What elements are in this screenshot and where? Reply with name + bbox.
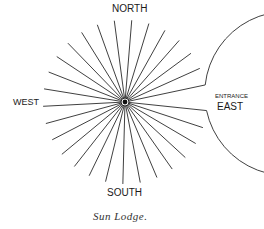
- east-label: EAST: [217, 101, 243, 112]
- north-label: NORTH: [112, 3, 147, 14]
- center-pole: [123, 100, 128, 105]
- west-label: WEST: [13, 97, 39, 107]
- lodge-spoke: [82, 32, 125, 102]
- lodge-spoke: [125, 40, 179, 102]
- lodge-spoke: [89, 102, 125, 176]
- lodge-spoke: [68, 43, 125, 102]
- lodge-spoke: [125, 30, 165, 102]
- lodge-spoke: [52, 102, 125, 140]
- lodge-spoke: [97, 25, 125, 102]
- lodge-spoke: [44, 89, 125, 102]
- entrance-label: ENTRANCE: [215, 93, 248, 99]
- lodge-spoke: [123, 102, 125, 184]
- lodge-spoke: [125, 102, 172, 169]
- lodge-spoke: [114, 21, 125, 102]
- lodge-spoke: [125, 68, 200, 102]
- lodge-spoke: [125, 102, 157, 178]
- lodge-spoke: [62, 102, 125, 154]
- figure-caption: Sun Lodge.: [93, 210, 148, 222]
- south-label: SOUTH: [107, 187, 142, 198]
